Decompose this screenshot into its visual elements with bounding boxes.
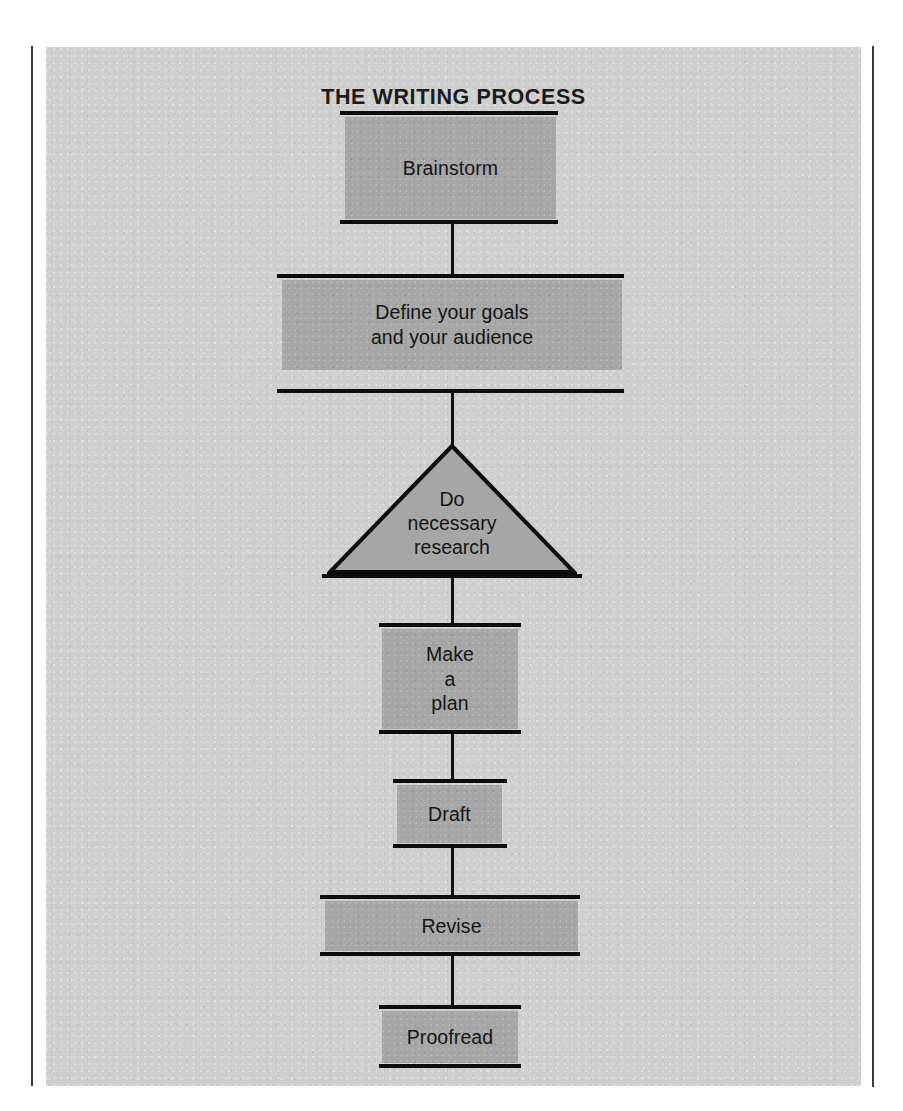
- flow-node-make-plan[interactable]: Make a plan: [382, 629, 518, 729]
- rule-above-make-plan: [379, 623, 521, 627]
- rule-below-draft: [393, 844, 507, 848]
- rule-above-draft: [393, 779, 507, 783]
- page-margin-rule-left: [31, 46, 33, 1086]
- rule-above-revise: [320, 895, 580, 899]
- flow-node-label: Proofread: [382, 1011, 518, 1063]
- connector-revise-to-proofread: [451, 955, 454, 1007]
- rule-above-brainstorm: [340, 111, 558, 115]
- rule-below-proofread: [379, 1064, 521, 1068]
- rule-below-make-plan: [379, 730, 521, 734]
- flow-node-label: Brainstorm: [345, 117, 556, 219]
- connector-define-goals-to-research: [451, 392, 454, 446]
- rule-below-brainstorm: [340, 220, 558, 224]
- page-title: THE WRITING PROCESS: [46, 85, 861, 110]
- flow-node-define-goals[interactable]: Define your goals and your audience: [282, 280, 622, 370]
- flow-node-brainstorm[interactable]: Brainstorm: [345, 117, 556, 219]
- rule-above-define-goals: [277, 274, 624, 278]
- flow-node-revise[interactable]: Revise: [325, 901, 578, 951]
- flow-node-label: Revise: [325, 901, 578, 951]
- scanned-page: THE WRITING PROCESS Brainstorm Define yo…: [0, 0, 903, 1111]
- flow-node-label: Draft: [397, 785, 502, 843]
- connector-research-to-make-plan: [451, 577, 454, 625]
- flow-node-label: Make a plan: [382, 629, 518, 729]
- page-margin-rule-right: [872, 46, 874, 1087]
- flow-node-research[interactable]: Do necessary research: [327, 443, 577, 575]
- flow-node-draft[interactable]: Draft: [397, 785, 502, 843]
- flow-node-label: Define your goals and your audience: [282, 280, 622, 370]
- rule-below-revise: [320, 952, 580, 956]
- connector-draft-to-revise: [451, 847, 454, 897]
- rule-above-proofread: [379, 1005, 521, 1009]
- connector-brainstorm-to-define-goals: [451, 223, 454, 275]
- flow-node-label: Do necessary research: [327, 487, 577, 560]
- connector-make-plan-to-draft: [451, 733, 454, 781]
- flow-node-proofread[interactable]: Proofread: [382, 1011, 518, 1063]
- flowchart-panel: THE WRITING PROCESS Brainstorm Define yo…: [46, 47, 861, 1086]
